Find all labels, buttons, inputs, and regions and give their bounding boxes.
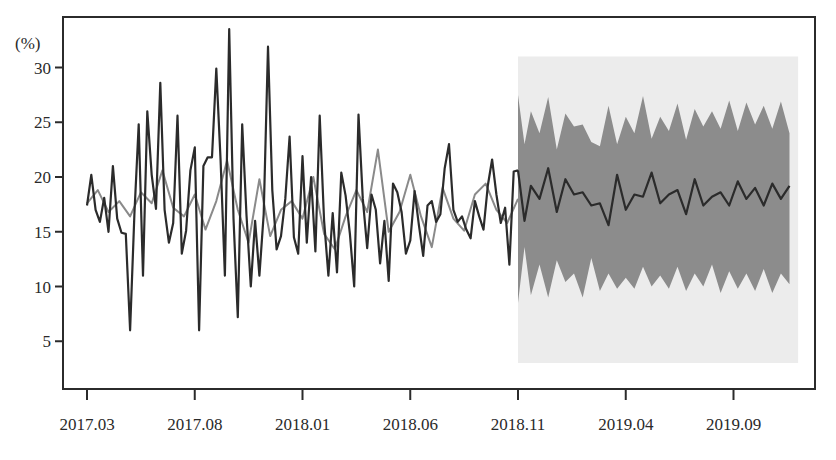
x-tick-label: 2017.08 <box>167 415 222 434</box>
forecast-interval-bands <box>518 57 798 364</box>
y-tick-label: 30 <box>34 59 51 78</box>
y-tick-label: 10 <box>34 278 51 297</box>
forecast-line-chart: 30252015105 2017.032017.082018.012018.06… <box>0 0 836 460</box>
x-axis: 2017.032017.082018.012018.062018.112019.… <box>59 389 761 434</box>
x-tick-label: 2018.01 <box>275 415 330 434</box>
y-axis-unit-label: (%) <box>15 34 40 53</box>
x-tick-label: 2018.11 <box>491 415 546 434</box>
y-tick-label: 15 <box>34 223 51 242</box>
actual-series-line <box>87 29 518 330</box>
x-tick-label: 2018.06 <box>383 415 438 434</box>
x-tick-label: 2019.09 <box>706 415 761 434</box>
y-axis: 30252015105 <box>34 59 63 352</box>
x-tick-label: 2017.03 <box>59 415 114 434</box>
plot-area <box>87 29 798 363</box>
x-tick-label: 2019.04 <box>598 415 654 434</box>
y-tick-label: 20 <box>34 168 51 187</box>
y-tick-label: 5 <box>43 332 52 351</box>
y-tick-label: 25 <box>34 113 51 132</box>
